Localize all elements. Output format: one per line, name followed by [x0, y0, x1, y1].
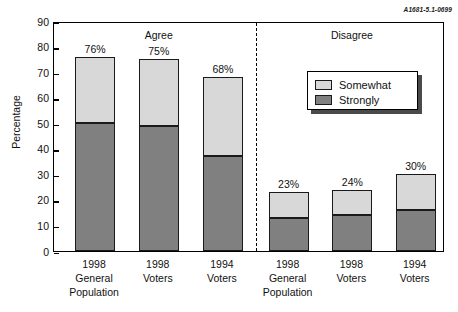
y-tick-mark — [54, 201, 59, 203]
group-divider-line — [256, 23, 257, 251]
bar-4[interactable] — [269, 192, 309, 251]
group-title-disagree: Disagree — [331, 29, 373, 41]
x-category-label-line: 1998 — [336, 257, 366, 271]
bar-6[interactable] — [396, 174, 436, 251]
y-tick-mark — [54, 48, 59, 50]
x-category-label-line: Voters — [400, 271, 430, 285]
bar-segment-somewhat[interactable] — [203, 77, 243, 156]
y-tick-label: 40 — [37, 143, 49, 155]
y-tick-mark — [54, 176, 59, 178]
y-tick-label: 0 — [43, 246, 49, 258]
y-tick-label: 20 — [37, 194, 49, 206]
x-category-label-line: General — [263, 271, 313, 285]
y-tick-label: 60 — [37, 92, 49, 104]
x-category-label-5: 1998Voters — [336, 257, 366, 285]
legend-label: Strongly — [339, 94, 379, 106]
bar-segment-somewhat[interactable] — [396, 174, 436, 210]
bar-segment-somewhat[interactable] — [269, 192, 309, 218]
x-category-label-line: Voters — [207, 271, 237, 285]
bar-segment-somewhat[interactable] — [139, 59, 179, 125]
bar-segment-strongly[interactable] — [396, 210, 436, 251]
chart-figure: A1681-5.1-0699 Percentage 01020304050607… — [0, 0, 458, 312]
chart-legend: SomewhatStrongly — [307, 71, 418, 110]
x-category-label-3: 1994Voters — [207, 257, 237, 285]
bar-value-label-3: 68% — [212, 63, 233, 75]
bar-segment-strongly[interactable] — [332, 215, 372, 251]
y-tick-label: 70 — [37, 67, 49, 79]
x-category-label-6: 1994Voters — [400, 257, 430, 285]
figure-id-label: A1681-5.1-0699 — [404, 6, 452, 13]
bar-value-label-1: 76% — [85, 43, 106, 55]
legend-label: Somewhat — [339, 79, 391, 91]
bar-segment-somewhat[interactable] — [75, 57, 115, 123]
y-axis-title: Percentage — [10, 77, 22, 167]
y-tick-mark — [54, 227, 59, 229]
x-category-label-line: 1994 — [400, 257, 430, 271]
y-tick-label: 80 — [37, 41, 49, 53]
bar-segment-strongly[interactable] — [203, 156, 243, 251]
x-category-label-2: 1998Voters — [143, 257, 173, 285]
bar-segment-somewhat[interactable] — [332, 190, 372, 216]
y-tick-label: 10 — [37, 220, 49, 232]
x-category-label-1: 1998GeneralPopulation — [69, 257, 119, 299]
x-category-label-line: Voters — [143, 271, 173, 285]
x-category-label-line: Voters — [336, 271, 366, 285]
y-tick-mark — [54, 23, 59, 25]
y-tick-label: 90 — [37, 16, 49, 28]
legend-swatch-somewhat — [315, 80, 332, 90]
x-category-label-line: Population — [263, 285, 313, 299]
bar-2[interactable] — [139, 59, 179, 251]
y-tick-mark — [54, 99, 59, 101]
bar-segment-strongly[interactable] — [139, 126, 179, 251]
x-category-label-line: General — [69, 271, 119, 285]
x-category-label-line: 1998 — [263, 257, 313, 271]
x-category-label-line: 1994 — [207, 257, 237, 271]
x-category-label-line: 1998 — [69, 257, 119, 271]
bar-value-label-6: 30% — [405, 160, 426, 172]
bar-1[interactable] — [75, 57, 115, 251]
y-tick-label: 30 — [37, 169, 49, 181]
x-category-label-4: 1998GeneralPopulation — [263, 257, 313, 299]
y-tick-label: 50 — [37, 118, 49, 130]
legend-swatch-strongly — [315, 95, 332, 105]
group-title-agree: Agree — [145, 29, 173, 41]
legend-row[interactable]: Strongly — [315, 92, 408, 107]
y-tick-mark — [54, 150, 59, 152]
y-tick-mark — [54, 125, 59, 127]
legend-row[interactable]: Somewhat — [315, 77, 408, 92]
bar-segment-strongly[interactable] — [75, 123, 115, 251]
y-tick-mark — [54, 253, 59, 255]
plot-area: 0102030405060708090 AgreeDisagree 76%75%… — [53, 22, 444, 252]
x-category-label-line: Population — [69, 285, 119, 299]
x-category-label-line: 1998 — [143, 257, 173, 271]
bar-value-label-5: 24% — [342, 176, 363, 188]
bar-segment-strongly[interactable] — [269, 218, 309, 251]
bar-value-label-4: 23% — [278, 178, 299, 190]
bar-value-label-2: 75% — [148, 45, 169, 57]
bar-5[interactable] — [332, 190, 372, 251]
bar-3[interactable] — [203, 77, 243, 251]
y-tick-mark — [54, 74, 59, 76]
